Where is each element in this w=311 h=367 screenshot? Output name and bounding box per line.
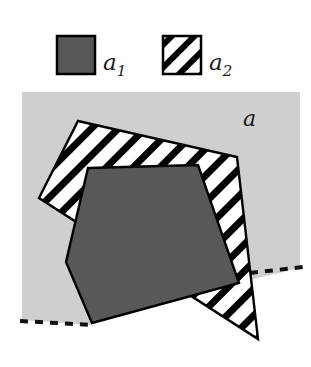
region-a-label: a: [243, 106, 256, 131]
figure-root: a1 a2: [0, 0, 311, 367]
diagram-body: a: [0, 0, 311, 367]
venn-diagram-figure: a1 a2: [0, 0, 311, 367]
